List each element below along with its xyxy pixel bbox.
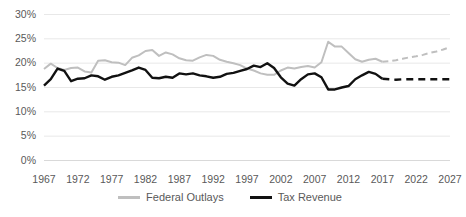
series-paths xyxy=(44,42,450,90)
legend-label-tax-revenue: Tax Revenue xyxy=(278,191,342,203)
y-tick-label: 5% xyxy=(0,130,36,141)
legend-item-federal-outlays[interactable]: Federal Outlays xyxy=(118,191,224,203)
y-tick-label: 30% xyxy=(0,9,36,20)
gridlines xyxy=(44,15,450,161)
legend-label-federal-outlays: Federal Outlays xyxy=(146,191,224,203)
y-tick-label: 15% xyxy=(0,82,36,93)
y-tick-label: 10% xyxy=(0,106,36,117)
legend-item-tax-revenue[interactable]: Tax Revenue xyxy=(250,191,342,203)
y-tick-label: 20% xyxy=(0,57,36,68)
chart-legend: Federal Outlays Tax Revenue xyxy=(0,191,460,203)
y-tick-label: 25% xyxy=(0,33,36,44)
series-line-tax-revenue-projected xyxy=(382,79,450,80)
x-tick-label: 2027 xyxy=(430,173,466,185)
legend-line-icon-outlays xyxy=(118,196,140,199)
series-line-federal-outlays-projected xyxy=(382,47,450,62)
legend-line-icon-revenue xyxy=(250,196,272,199)
series-line-federal-outlays xyxy=(44,42,382,75)
y-tick-label: 0% xyxy=(0,155,36,166)
